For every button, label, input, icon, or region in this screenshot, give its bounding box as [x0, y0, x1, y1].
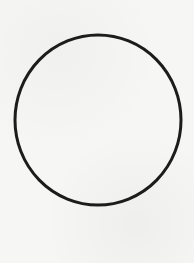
circle-drawing	[0, 0, 194, 263]
circle-outline	[15, 35, 181, 205]
paper-background	[0, 0, 194, 263]
